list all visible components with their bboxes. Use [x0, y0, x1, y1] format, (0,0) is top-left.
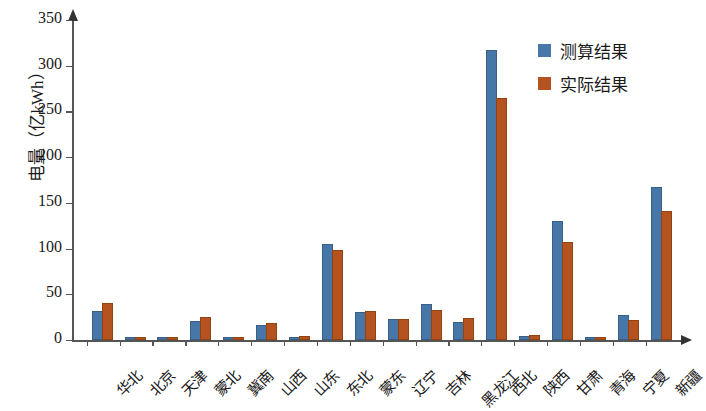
- bar: [102, 303, 113, 340]
- y-axis-line: [72, 20, 74, 340]
- x-tick: [87, 340, 88, 346]
- chart-legend: 测算结果实际结果: [538, 38, 628, 104]
- legend-label: 测算结果: [560, 38, 628, 63]
- x-axis-label-3: 蒙北: [209, 364, 245, 400]
- y-tick-100: 100: [66, 249, 72, 250]
- bar: [135, 337, 146, 341]
- bar: [562, 242, 573, 340]
- bar-group: [421, 20, 441, 340]
- bar: [200, 317, 211, 340]
- y-tick-200: 200: [66, 157, 72, 158]
- x-tick: [185, 340, 186, 346]
- bar-group: [190, 20, 210, 340]
- bar-group: [92, 20, 112, 340]
- x-axis-label-2: 天津: [176, 364, 212, 400]
- x-axis-label-0: 华北: [110, 364, 146, 400]
- bar: [628, 320, 639, 340]
- x-axis-label-5: 山西: [275, 364, 311, 400]
- x-axis-label-6: 山东: [308, 364, 344, 400]
- y-tick-label: 200: [38, 146, 62, 164]
- x-axis-label-14: 甘肃: [571, 364, 607, 400]
- y-tick-label: 300: [38, 55, 62, 73]
- bar: [398, 319, 409, 340]
- legend-item-1[interactable]: 实际结果: [538, 71, 628, 96]
- bar-group: [388, 20, 408, 340]
- bar: [496, 98, 507, 340]
- x-tick: [383, 340, 384, 346]
- y-tick-50: 50: [66, 294, 72, 295]
- x-axis-label-15: 青海: [604, 364, 640, 400]
- y-tick-0: 0: [66, 340, 72, 341]
- bar-group: [651, 20, 671, 340]
- x-tick: [218, 340, 219, 346]
- legend-label: 实际结果: [560, 71, 628, 96]
- y-tick-150: 150: [66, 203, 72, 204]
- x-tick: [120, 340, 121, 346]
- bar: [529, 335, 540, 340]
- bar-group: [486, 20, 506, 340]
- legend-item-0[interactable]: 测算结果: [538, 38, 628, 63]
- x-axis-label-9: 辽宁: [406, 364, 442, 400]
- bar-group: [223, 20, 243, 340]
- x-tick: [152, 340, 153, 346]
- bar-group: [322, 20, 342, 340]
- x-axis-label-8: 蒙东: [374, 364, 410, 400]
- bar: [431, 310, 442, 340]
- y-tick-label: 150: [38, 192, 62, 210]
- bar: [266, 323, 277, 340]
- bar: [595, 337, 606, 341]
- bar-group: [256, 20, 276, 340]
- x-tick: [613, 340, 614, 346]
- x-tick: [514, 340, 515, 346]
- bar-group: [355, 20, 375, 340]
- x-tick: [646, 340, 647, 346]
- y-tick-label: 350: [38, 9, 62, 27]
- x-axis-line: [72, 340, 682, 342]
- y-tick-350: 350: [66, 20, 72, 21]
- x-tick: [547, 340, 548, 346]
- y-tick-label: 50: [46, 283, 62, 301]
- x-tick: [350, 340, 351, 346]
- bar-group: [453, 20, 473, 340]
- x-axis-arrow-icon: [681, 335, 692, 345]
- bar-group: [289, 20, 309, 340]
- y-tick-300: 300: [66, 66, 72, 67]
- x-tick: [251, 340, 252, 346]
- x-axis-label-16: 宁夏: [637, 364, 673, 400]
- bar: [365, 311, 376, 340]
- bar-group: [157, 20, 177, 340]
- bar: [167, 337, 178, 341]
- x-tick: [481, 340, 482, 346]
- bar: [299, 336, 310, 340]
- legend-swatch-icon: [538, 77, 551, 90]
- x-tick: [284, 340, 285, 346]
- bar: [233, 337, 244, 341]
- bar-group: [519, 20, 539, 340]
- x-axis-label-1: 北京: [143, 364, 179, 400]
- x-tick: [580, 340, 581, 346]
- y-tick-label: 100: [38, 238, 62, 256]
- bar-group: [125, 20, 145, 340]
- bar: [332, 250, 343, 340]
- x-axis-label-4: 冀南: [242, 364, 278, 400]
- x-axis-label-10: 吉林: [439, 364, 475, 400]
- x-axis-label-7: 东北: [341, 364, 377, 400]
- bar: [463, 318, 474, 340]
- x-axis-label-17: 新疆: [669, 364, 705, 400]
- x-tick: [317, 340, 318, 346]
- x-axis-label-13: 陕西: [538, 364, 574, 400]
- legend-swatch-icon: [538, 44, 551, 57]
- y-tick-label: 0: [54, 329, 62, 347]
- y-tick-250: 250: [66, 111, 72, 112]
- x-tick: [416, 340, 417, 346]
- x-tick: [448, 340, 449, 346]
- y-tick-label: 250: [38, 100, 62, 118]
- bar: [661, 211, 672, 340]
